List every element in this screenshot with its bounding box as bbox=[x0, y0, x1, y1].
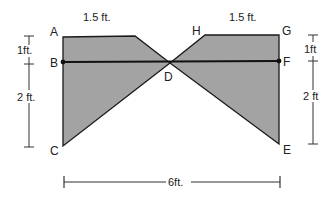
bowtie-figure-diagram: A B C D E F G H 1.5 ft. 1.5 ft. 1ft. 2 f… bbox=[0, 0, 335, 202]
top-left-width-label: 1.5 ft. bbox=[83, 11, 111, 23]
point-f-dot bbox=[277, 59, 282, 64]
left-upper-height-label: 1ft. bbox=[17, 44, 32, 56]
left-lower-height-label: 2 ft. bbox=[17, 91, 35, 103]
top-right-width-label: 1.5 ft. bbox=[229, 11, 257, 23]
label-d: D bbox=[164, 70, 173, 84]
label-f: F bbox=[283, 55, 290, 69]
right-lower-height-label: 2 ft bbox=[303, 90, 318, 102]
segment-bf bbox=[63, 61, 279, 62]
right-shaded-region bbox=[170, 35, 279, 144]
label-a: A bbox=[50, 25, 58, 39]
label-e: E bbox=[283, 143, 291, 157]
left-shaded-region bbox=[63, 36, 170, 146]
label-g: G bbox=[282, 24, 291, 38]
label-h: H bbox=[192, 24, 201, 38]
point-b-dot bbox=[61, 60, 66, 65]
label-b: B bbox=[50, 56, 58, 70]
label-c: C bbox=[50, 144, 59, 158]
right-upper-height-label: 1ft bbox=[304, 43, 316, 55]
total-width-label: 6ft. bbox=[168, 176, 183, 188]
